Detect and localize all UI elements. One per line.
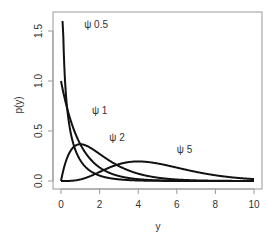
curve-label-psi-2: ψ 2 — [109, 132, 125, 143]
x-tick-label: 2 — [97, 199, 103, 210]
curve-labels: ψ 0.5ψ 1ψ 2ψ 5 — [84, 19, 193, 155]
curve-label-psi-5: ψ 5 — [177, 144, 193, 155]
y-tick-label: 1.0 — [33, 74, 44, 88]
curve-label-psi-0-5: ψ 0.5 — [84, 19, 108, 30]
y-tick-label: 1.5 — [33, 24, 44, 38]
y-axis-label: p(y) — [13, 96, 24, 113]
y-tick-label: 0.0 — [33, 174, 44, 188]
curves — [61, 21, 254, 181]
x-axis: 0246810 — [58, 189, 260, 210]
curve-psi-1 — [61, 81, 254, 181]
x-tick-label: 4 — [135, 199, 141, 210]
chart-area: 0246810 0.00.51.01.5 ψ 0.5ψ 1ψ 2ψ 5 y p(… — [0, 0, 275, 245]
x-tick-label: 10 — [248, 199, 260, 210]
x-tick-label: 8 — [213, 199, 219, 210]
x-axis-label: y — [156, 221, 161, 232]
curve-psi-0-5 — [63, 21, 254, 181]
x-tick-label: 0 — [58, 199, 64, 210]
y-axis: 0.00.51.01.5 — [33, 24, 53, 188]
curve-label-psi-1: ψ 1 — [92, 105, 108, 116]
y-tick-label: 0.5 — [33, 124, 44, 138]
gamma-density-plot: 0246810 0.00.51.01.5 ψ 0.5ψ 1ψ 2ψ 5 y p(… — [0, 0, 275, 245]
x-tick-label: 6 — [174, 199, 180, 210]
